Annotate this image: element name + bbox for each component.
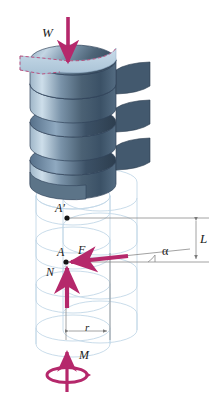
label-lead-L: L bbox=[200, 232, 207, 245]
diagram-canvas bbox=[0, 0, 221, 401]
label-helix-angle-alpha: α bbox=[162, 245, 168, 257]
thread-back-turns bbox=[116, 62, 150, 170]
label-force-N: N bbox=[46, 266, 54, 278]
screw-helix-solid bbox=[20, 45, 150, 201]
label-point-A-prime: A' bbox=[55, 202, 65, 214]
point-marker-A-lower bbox=[63, 259, 68, 264]
label-radius-r: r bbox=[85, 322, 89, 333]
point-marker-A-upper bbox=[64, 215, 69, 220]
torque-loop-icon bbox=[47, 368, 91, 383]
label-load-W: W bbox=[42, 26, 53, 39]
screw-thread-diagram: W A' A F N M L r α bbox=[0, 0, 221, 401]
label-force-F: F bbox=[78, 244, 85, 256]
label-moment-M: M bbox=[79, 349, 89, 361]
label-point-A: A bbox=[57, 246, 64, 258]
